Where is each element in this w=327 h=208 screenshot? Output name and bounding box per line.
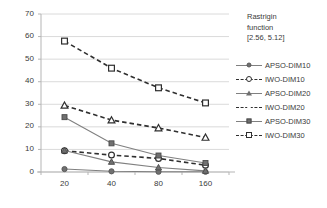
- legend-label: IWO-DIM20: [262, 103, 305, 112]
- legend-marker-circle-filled-icon: [236, 60, 262, 70]
- series-iwo-dim20: [61, 102, 209, 140]
- chart-title-line-1: Rastrigin: [247, 12, 323, 23]
- y-tick-label-0: 0: [16, 167, 34, 176]
- y-tick-label-60: 60: [16, 31, 34, 40]
- legend-item-iwo-dim30[interactable]: IWO-DIM30: [236, 128, 326, 142]
- legend-label: APSO-DIM20: [262, 89, 310, 98]
- legend-marker-square-open-icon: [236, 130, 262, 140]
- y-tick-label-40: 40: [16, 76, 34, 85]
- chart-title-line-3: [2.56, 5.12]: [247, 33, 323, 44]
- legend-marker-square-filled-icon: [236, 116, 262, 126]
- legend-item-apso-dim20[interactable]: APSO-DIM20: [236, 86, 326, 100]
- y-tick-label-30: 30: [16, 99, 34, 108]
- y-tick-label-70: 70: [16, 9, 34, 18]
- legend-item-apso-dim30[interactable]: APSO-DIM30: [236, 114, 326, 128]
- legend-label: IWO-DIM30: [262, 131, 305, 140]
- chart-title: Rastrigin function [2.56, 5.12]: [247, 12, 323, 44]
- x-tick-label-160: 160: [194, 179, 218, 188]
- series-layer: [61, 38, 209, 174]
- legend-marker-circle-open-icon: [236, 74, 262, 84]
- gridlines: [41, 14, 229, 172]
- series-iwo-dim30: [62, 38, 209, 106]
- chart-container: 010203040506070 204080160 Rastrigin func…: [0, 0, 327, 208]
- y-tick-label-10: 10: [16, 144, 34, 153]
- legend-item-apso-dim10[interactable]: APSO-DIM10: [236, 58, 326, 72]
- legend-label: APSO-DIM10: [262, 61, 310, 70]
- x-tick-label-80: 80: [147, 179, 171, 188]
- x-tick-label-20: 20: [53, 179, 77, 188]
- y-tick-label-50: 50: [16, 54, 34, 63]
- chart-title-line-2: function: [247, 23, 323, 34]
- legend-item-iwo-dim20[interactable]: IWO-DIM20: [236, 100, 326, 114]
- legend-marker-triangle-filled-icon: [236, 88, 262, 98]
- legend-label: IWO-DIM10: [262, 75, 305, 84]
- x-tick-label-40: 40: [100, 179, 124, 188]
- legend-item-iwo-dim10[interactable]: IWO-DIM10: [236, 72, 326, 86]
- chart-legend: APSO-DIM10IWO-DIM10APSO-DIM20IWO-DIM20AP…: [236, 58, 326, 142]
- series-apso-dim30: [62, 115, 208, 166]
- legend-marker-triangle-open-icon: [236, 102, 262, 112]
- legend-label: APSO-DIM30: [262, 117, 310, 126]
- y-tick-label-20: 20: [16, 121, 34, 130]
